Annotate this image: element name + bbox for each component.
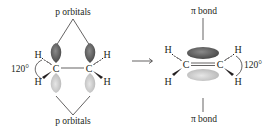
hydrogen-top-right: H <box>103 49 110 60</box>
hashed-wedge-bond-left <box>172 54 182 61</box>
pi-bond-lobe-lower <box>187 69 219 81</box>
solid-wedge-bond-right <box>224 68 234 76</box>
carbon-atom-left: C <box>53 63 60 74</box>
hashed-wedge-bond-right <box>225 54 235 61</box>
p-orbital-lobe-lower-left <box>51 73 62 93</box>
hydrogen-bottom-left: H <box>34 76 41 87</box>
left-molecule: p orbitals p orbitals C C H H H H <box>11 7 111 126</box>
hydrogen-bottom-right: H <box>234 76 241 87</box>
pi-bond-top-label: π bond <box>191 6 217 16</box>
p-orbital-lobe-upper-left <box>51 43 62 63</box>
right-molecule: π bond π bond C C H H H H <box>164 6 262 124</box>
hydrogen-top-left: H <box>34 49 41 60</box>
hydrogen-bottom-left: H <box>164 76 171 87</box>
orbital-diagram: p orbitals p orbitals C C H H H H <box>0 0 274 135</box>
hashed-wedge-bond-left <box>42 58 52 65</box>
pi-bond-bottom-label: π bond <box>191 114 217 124</box>
carbon-atom-left: C <box>183 59 190 70</box>
reaction-arrow <box>132 59 153 64</box>
bottom-pointer-lines <box>56 96 90 115</box>
pi-bond-lobe-upper <box>187 47 219 59</box>
solid-wedge-bond-right <box>93 71 103 79</box>
p-orbitals-bottom-label: p orbitals <box>55 116 91 126</box>
p-orbital-lobe-upper-right <box>85 43 96 63</box>
angle-arc <box>236 56 242 76</box>
p-orbital-lobe-lower-right <box>85 73 96 93</box>
hashed-wedge-bond-right <box>94 58 104 65</box>
carbon-atom-right: C <box>86 63 93 74</box>
hydrogen-top-left: H <box>164 44 171 55</box>
top-pointer-lines <box>56 19 90 46</box>
angle-label: 120° <box>11 64 29 74</box>
carbon-atom-right: C <box>217 59 224 70</box>
solid-wedge-bond-left <box>172 68 182 76</box>
hydrogen-top-right: H <box>234 44 241 55</box>
p-orbitals-top-label: p orbitals <box>55 7 91 17</box>
hydrogen-bottom-right: H <box>103 76 110 87</box>
solid-wedge-bond-left <box>42 71 52 79</box>
angle-label: 120° <box>244 60 262 70</box>
